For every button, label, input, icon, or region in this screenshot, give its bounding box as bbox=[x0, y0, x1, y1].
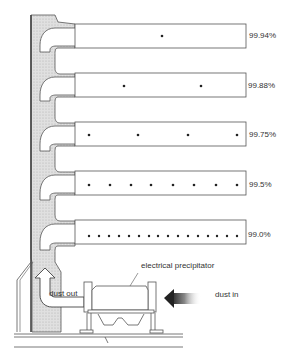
precipitator-diagram bbox=[0, 0, 291, 359]
precipitator-label: electrical precipitator bbox=[141, 261, 214, 270]
efficiency-label-4: 99.5% bbox=[249, 180, 272, 189]
ground bbox=[14, 334, 183, 347]
dust-out-label: dust out bbox=[49, 289, 77, 298]
dust-in-arrow bbox=[164, 289, 201, 308]
electrical-precipitator bbox=[80, 273, 163, 333]
efficiency-label-2: 99.88% bbox=[248, 81, 275, 90]
ducts bbox=[75, 24, 246, 244]
efficiency-label-3: 99.75% bbox=[249, 130, 276, 139]
dust-in-label: dust in bbox=[215, 290, 239, 299]
efficiency-label-5: 99.0% bbox=[248, 230, 271, 239]
efficiency-label-1: 99.94% bbox=[249, 31, 276, 40]
